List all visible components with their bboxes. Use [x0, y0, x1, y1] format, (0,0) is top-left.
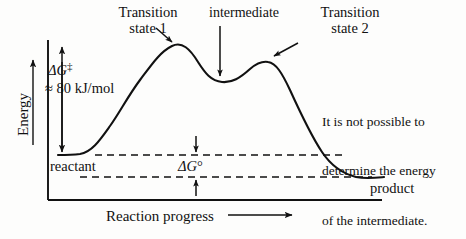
transition-state-1-label: Transitionstate 1: [96, 4, 200, 36]
note-line-1: It is not possible to: [322, 114, 462, 130]
transition-state-1-label-line2: state 1: [129, 20, 166, 36]
note-line-2: determine the energy: [322, 163, 462, 179]
transition-state-1-label-line1: Transition: [118, 4, 177, 20]
intermediate-label: intermediate: [196, 5, 292, 21]
delta-g-standard-symbol: ΔG: [178, 158, 197, 174]
transition-state-2-label-line1: Transition: [320, 4, 379, 20]
activation-energy-value: ≈ 80 kJ/mol: [45, 80, 114, 96]
note-line-3: of the intermediate.: [322, 213, 462, 229]
transition-state-2-label: Transitionstate 2: [298, 4, 402, 36]
y-axis-title: Energy: [15, 78, 32, 150]
activation-energy-label: ΔG‡: [48, 60, 72, 78]
transition-state-2-label-line2: state 2: [331, 20, 368, 36]
reaction-coordinate-diagram: Transitionstate 1 intermediate Transitio…: [0, 0, 466, 239]
transition-state-2-pointer-arrow: [274, 43, 298, 56]
double-dagger-symbol: ‡: [67, 60, 73, 72]
degree-symbol: °: [197, 158, 203, 174]
activation-energy-symbol: ΔG: [48, 62, 67, 78]
reactant-label: reactant: [50, 158, 96, 174]
delta-g-standard-label: ΔG°: [178, 158, 203, 174]
x-axis-title: Reaction progress: [106, 208, 214, 225]
explanatory-note: It is not possible to determine the ener…: [322, 81, 462, 239]
